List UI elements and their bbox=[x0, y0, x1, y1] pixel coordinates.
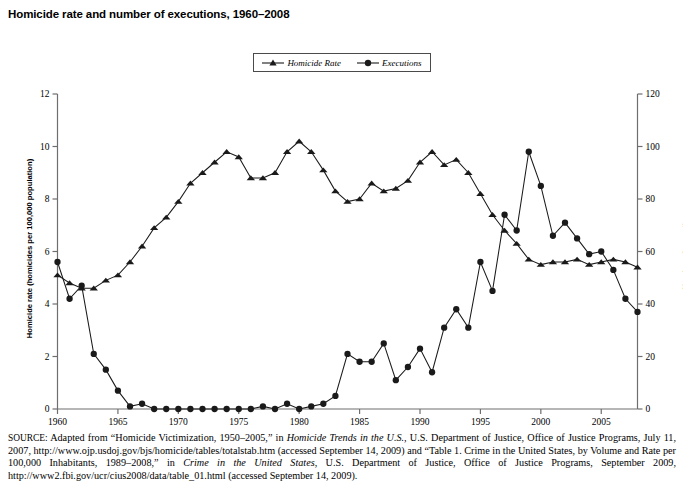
circle-marker bbox=[598, 248, 604, 254]
circle-marker bbox=[320, 401, 326, 407]
circle-marker bbox=[562, 219, 568, 225]
circle-marker bbox=[139, 401, 145, 407]
circle-marker bbox=[356, 359, 362, 365]
circle-marker bbox=[187, 406, 193, 412]
circle-marker bbox=[296, 406, 302, 412]
triangle-marker bbox=[355, 196, 363, 201]
source-note: SOURCE: Adapted from “Homicide Victimiza… bbox=[8, 432, 676, 482]
triangle-marker bbox=[53, 272, 61, 277]
y-axis-right-tick-label: 60 bbox=[646, 247, 656, 257]
source-prefix: SOURCE: bbox=[8, 433, 48, 443]
triangle-marker bbox=[404, 178, 412, 183]
x-axis-tick-label: 1980 bbox=[290, 417, 309, 427]
circle-marker bbox=[574, 235, 580, 241]
circle-marker bbox=[369, 359, 375, 365]
circle-marker bbox=[526, 149, 532, 155]
y-axis-left-label: Homicide rate (homicides per 100,000 pop… bbox=[25, 124, 34, 374]
y-axis-left-tick-label: 0 bbox=[45, 404, 50, 414]
circle-marker bbox=[272, 406, 278, 412]
triangle-marker bbox=[138, 244, 146, 249]
circle-marker bbox=[538, 183, 544, 189]
triangle-marker bbox=[440, 162, 448, 167]
x-axis-tick-label: 1990 bbox=[411, 417, 430, 427]
x-axis-tick-label: 2005 bbox=[592, 417, 611, 427]
x-axis-tick-label: 1960 bbox=[48, 417, 67, 427]
circle-marker bbox=[66, 296, 72, 302]
series-line-homicide-rate bbox=[58, 141, 638, 288]
circle-marker bbox=[501, 212, 507, 218]
series-line-executions bbox=[58, 152, 638, 409]
triangle-marker bbox=[126, 259, 134, 264]
y-axis-right-tick-label: 80 bbox=[646, 194, 656, 204]
circle-marker bbox=[151, 406, 157, 412]
circle-marker bbox=[550, 233, 556, 239]
triangle-marker bbox=[114, 272, 122, 277]
triangle-marker bbox=[633, 265, 641, 270]
circle-marker bbox=[284, 401, 290, 407]
circle-marker bbox=[453, 306, 459, 312]
triangle-marker bbox=[452, 157, 460, 162]
circle-marker bbox=[54, 259, 60, 265]
circle-marker bbox=[260, 403, 266, 409]
source-italic-2: Crime in the United States bbox=[183, 457, 314, 468]
y-axis-left-tick-label: 10 bbox=[40, 142, 50, 152]
circle-marker bbox=[127, 403, 133, 409]
y-axis-right-tick-label: 120 bbox=[646, 89, 661, 99]
triangle-marker bbox=[331, 188, 339, 193]
circle-marker bbox=[199, 406, 205, 412]
triangle-marker bbox=[367, 181, 375, 186]
circle-marker bbox=[224, 406, 230, 412]
series-markers-executions bbox=[54, 149, 640, 413]
y-axis-left-tick-label: 4 bbox=[45, 299, 50, 309]
triangle-marker bbox=[162, 215, 170, 220]
triangle-marker bbox=[525, 257, 533, 262]
y-axis-left-tick-label: 8 bbox=[45, 194, 50, 204]
circle-marker bbox=[79, 282, 85, 288]
series-markers-homicide-rate bbox=[53, 139, 641, 291]
circle-marker bbox=[405, 364, 411, 370]
circle-marker bbox=[610, 267, 616, 273]
triangle-marker bbox=[235, 154, 243, 159]
y-axis-left-tick-label: 12 bbox=[40, 89, 50, 99]
circle-marker bbox=[441, 324, 447, 330]
circle-marker bbox=[429, 369, 435, 375]
circle-marker bbox=[586, 251, 592, 257]
triangle-marker bbox=[271, 170, 279, 175]
chart-plot-area: 0246810120204060801001201960196519701975… bbox=[0, 0, 683, 432]
x-axis-tick-label: 1985 bbox=[350, 417, 369, 427]
circle-marker bbox=[393, 377, 399, 383]
circle-marker bbox=[175, 406, 181, 412]
triangle-marker bbox=[222, 149, 230, 154]
circle-marker bbox=[332, 393, 338, 399]
triangle-marker bbox=[488, 212, 496, 217]
triangle-marker bbox=[609, 257, 617, 262]
triangle-marker bbox=[512, 241, 520, 246]
x-axis-tick-label: 1975 bbox=[229, 417, 248, 427]
circle-marker bbox=[381, 340, 387, 346]
triangle-marker bbox=[428, 149, 436, 154]
circle-marker bbox=[622, 296, 628, 302]
circle-marker bbox=[91, 351, 97, 357]
circle-marker bbox=[163, 406, 169, 412]
circle-marker bbox=[477, 259, 483, 265]
circle-marker bbox=[344, 351, 350, 357]
x-axis-tick-label: 1995 bbox=[471, 417, 490, 427]
triangle-marker bbox=[102, 278, 110, 283]
circle-marker bbox=[417, 345, 423, 351]
source-italic-1: Homicide Trends in the U.S., bbox=[287, 432, 407, 443]
triangle-marker bbox=[464, 170, 472, 175]
circle-marker bbox=[103, 366, 109, 372]
figure-container: Homicide rate and number of executions, … bbox=[0, 0, 683, 484]
y-axis-right-tick-label: 20 bbox=[646, 352, 656, 362]
triangle-marker bbox=[319, 167, 327, 172]
circle-marker bbox=[236, 406, 242, 412]
triangle-marker bbox=[573, 257, 581, 262]
y-axis-left-tick-label: 6 bbox=[45, 247, 50, 257]
y-axis-right-tick-label: 40 bbox=[646, 299, 656, 309]
x-axis-tick-label: 1970 bbox=[169, 417, 188, 427]
circle-marker bbox=[514, 227, 520, 233]
circle-marker bbox=[634, 309, 640, 315]
triangle-marker bbox=[174, 199, 182, 204]
x-axis-tick-label: 1965 bbox=[108, 417, 127, 427]
circle-marker bbox=[489, 288, 495, 294]
